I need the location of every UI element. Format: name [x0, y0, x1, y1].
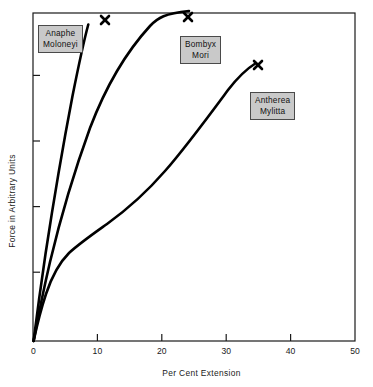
series-label-anaphe-moloneyi: Anaphe Moloneyi — [38, 25, 83, 53]
series-label-line1: Bombyx — [185, 39, 216, 50]
x-tick-label-40: 40 — [278, 346, 304, 356]
y-axis-title: Force in Arbitrary Units — [7, 121, 17, 281]
series-label-line2: Mylitta — [255, 106, 290, 117]
x-axis-title: Per Cent Extension — [0, 368, 373, 378]
x-tick-label-10: 10 — [84, 346, 110, 356]
series-label-line1: Anaphe — [43, 28, 78, 39]
chart-figure: Anaphe Moloneyi Bombyx Mori Antherea Myl… — [0, 0, 373, 387]
series-label-bombyx-mori: Bombyx Mori — [180, 36, 221, 64]
x-tick-label-20: 20 — [149, 346, 175, 356]
x-tick-label-30: 30 — [213, 346, 239, 356]
x-tick-label-0: 0 — [20, 346, 46, 356]
series-label-line2: Moloneyi — [43, 39, 78, 50]
series-label-line2: Mori — [185, 50, 216, 61]
series-label-line1: Antherea — [255, 95, 290, 106]
x-tick-label-50: 50 — [342, 346, 368, 356]
series-label-antherea-mylitta: Antherea Mylitta — [250, 92, 295, 120]
